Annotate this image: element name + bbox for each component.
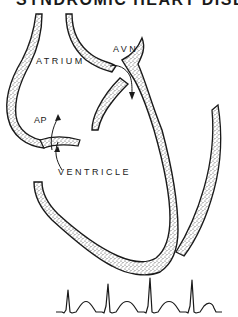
label-avn: AVN [113,44,138,54]
av-node [34,38,178,275]
septum-upper [66,14,128,130]
label-ventricle: VENTRICLE [58,167,131,177]
ecg-strip [56,278,222,313]
atrial-wall [7,14,46,148]
arrow-up-icon [55,114,61,121]
label-ap: AP [34,115,47,125]
label-atrium: ATRIUM [36,56,85,66]
ventricle-wall-right [176,105,221,256]
arrow-down-icon [129,92,135,100]
